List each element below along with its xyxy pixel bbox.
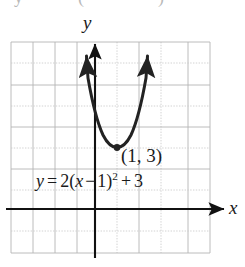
graph-canvas (0, 0, 245, 267)
grid-vertical-lines (11, 42, 210, 253)
y-axis-label: y (83, 13, 91, 32)
equation-minus: − (85, 171, 95, 191)
parabola-right-arm (117, 56, 148, 148)
axes (6, 44, 224, 258)
grid-horizontal-lines (11, 42, 210, 253)
grid-lines (11, 42, 210, 253)
equation-equals: = (47, 171, 57, 191)
x-axis-label: x (229, 198, 237, 217)
equation-coefficient: 2 (60, 171, 69, 191)
vertex-coordinate-label: (1, 3) (121, 146, 162, 165)
equation-plus: + (121, 171, 131, 191)
equation-lhs: y (36, 171, 44, 191)
vertex-point (114, 144, 121, 151)
equation-variable: x (75, 171, 83, 191)
equation-constant: 3 (134, 171, 143, 191)
equation-exponent: 2 (112, 170, 118, 182)
equation-label: y=2(x−1)2+3 (36, 172, 143, 190)
parabola-figure: y ( ) (0, 0, 245, 267)
parabola-left-arm (87, 56, 118, 148)
equation-inner-constant: 1 (97, 171, 106, 191)
